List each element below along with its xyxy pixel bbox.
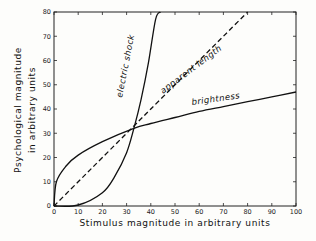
svg-text:30: 30	[43, 130, 51, 138]
svg-text:10: 10	[43, 178, 51, 186]
svg-text:50: 50	[171, 208, 179, 216]
svg-text:40: 40	[147, 208, 155, 216]
plot-frame	[54, 12, 296, 206]
svg-text:30: 30	[122, 208, 130, 216]
svg-text:90: 90	[268, 208, 276, 216]
y-axis-label-line1: Psychological magnitude	[13, 47, 23, 173]
svg-text:40: 40	[43, 105, 51, 113]
x-axis-ticks: 0102030405060708090100	[52, 12, 302, 216]
svg-text:20: 20	[43, 154, 51, 162]
svg-text:70: 70	[219, 208, 227, 216]
data-curves	[54, 12, 296, 206]
svg-text:80: 80	[243, 208, 251, 216]
curve-apparent-length	[54, 12, 248, 206]
svg-text:50: 50	[43, 81, 51, 89]
svg-text:0: 0	[47, 202, 51, 210]
curve-brightness	[54, 92, 296, 206]
curve-electric-shock	[54, 12, 161, 206]
svg-text:70: 70	[43, 33, 51, 41]
svg-text:60: 60	[195, 208, 203, 216]
psychophysics-chart: 0102030405060708090100 01020304050607080…	[0, 0, 316, 241]
svg-text:20: 20	[98, 208, 106, 216]
svg-text:0: 0	[52, 208, 56, 216]
svg-text:100: 100	[290, 208, 302, 216]
label-electric-shock: electric shock	[114, 33, 136, 99]
label-apparent-length: apparent length	[158, 43, 223, 96]
svg-text:80: 80	[43, 8, 51, 16]
svg-text:60: 60	[43, 57, 51, 65]
x-axis-label: Stimulus magnitude in arbitrary units	[80, 218, 271, 228]
y-axis-ticks: 01020304050607080	[43, 8, 296, 210]
svg-text:10: 10	[74, 208, 82, 216]
y-axis-label-line2: in arbitrary units	[27, 67, 37, 153]
